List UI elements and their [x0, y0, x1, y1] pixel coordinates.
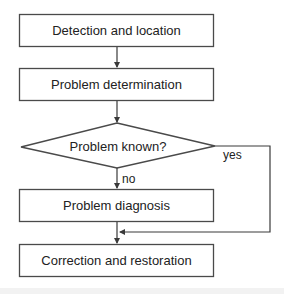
flowchart: Detection and location Problem determina… [0, 0, 284, 294]
node-problem-determination: Problem determination [20, 69, 214, 101]
node-correction-and-restoration: Correction and restoration [20, 245, 214, 277]
decision-label: Problem known? [70, 139, 167, 154]
node-label: Detection and location [52, 23, 181, 38]
node-problem-diagnosis: Problem diagnosis [20, 190, 214, 222]
edge-label-no: no [122, 172, 136, 186]
bottom-band [0, 288, 284, 294]
node-label: Problem diagnosis [63, 198, 170, 213]
node-detection-and-location: Detection and location [20, 15, 214, 47]
node-label: Problem determination [51, 77, 182, 92]
node-label: Correction and restoration [41, 253, 191, 268]
node-problem-known-decision: Problem known? [21, 123, 215, 168]
edge-label-yes: yes [223, 148, 242, 162]
